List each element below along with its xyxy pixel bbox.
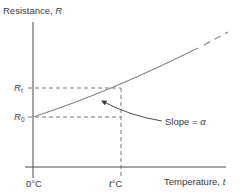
resistance-curve: [33, 48, 198, 117]
resistance-temperature-diagram: Resistance, R Temperature, t Rt R0 0°C t…: [0, 0, 239, 194]
x-origin-label: 0°C: [26, 178, 42, 189]
x-t-label: t°C: [109, 178, 122, 189]
resistance-curve-extension: [204, 32, 228, 45]
slope-arrow: [102, 101, 162, 121]
slope-label: Slope = α: [165, 116, 206, 127]
x-axis-label: Temperature, t: [164, 176, 226, 187]
r-0-label: R0: [14, 111, 25, 123]
r-t-label: Rt: [14, 82, 23, 94]
y-axis-label: Resistance, R: [3, 5, 62, 16]
